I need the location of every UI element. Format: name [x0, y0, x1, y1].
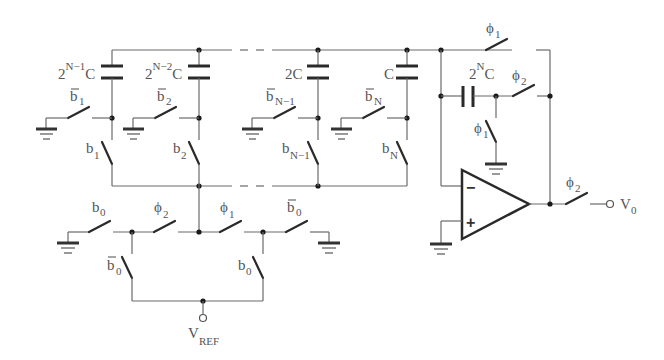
- ground-icon: [485, 164, 507, 174]
- switch-b2bar[interactable]: [155, 107, 176, 118]
- svg-text:ϕ: ϕ: [154, 199, 162, 215]
- label-b0bar-down: b0: [107, 257, 122, 277]
- svg-text:1: 1: [94, 149, 100, 161]
- switch-b2[interactable]: [189, 142, 199, 164]
- svg-text:ϕ: ϕ: [220, 199, 228, 215]
- label-b2: b2: [173, 140, 187, 161]
- switch-b1[interactable]: [102, 142, 112, 164]
- switch-phi2-out[interactable]: [566, 193, 587, 204]
- svg-text:2: 2: [166, 95, 172, 107]
- label-bnbar: bN: [365, 88, 382, 107]
- svg-text:1: 1: [79, 95, 85, 107]
- svg-text:0: 0: [100, 206, 106, 218]
- vref-terminal[interactable]: [200, 315, 207, 322]
- svg-text:b: b: [266, 88, 274, 104]
- svg-text:ϕ: ϕ: [512, 67, 520, 83]
- cap-label-cf: 2NC: [469, 60, 494, 82]
- svg-text:V: V: [620, 196, 631, 212]
- cap-label-c1: 2N−1C: [58, 60, 95, 82]
- label-b1bar: b1: [70, 88, 85, 107]
- label-bn1: bN−1: [282, 140, 310, 161]
- switch-phi1-top[interactable]: [486, 39, 507, 50]
- svg-text:b: b: [173, 140, 181, 156]
- switch-b1bar[interactable]: [68, 107, 89, 118]
- svg-text:b: b: [382, 140, 390, 156]
- bit-column-n: [331, 50, 418, 186]
- switch-b0bar-right[interactable]: [286, 221, 307, 232]
- svg-text:0: 0: [631, 204, 637, 216]
- svg-text:b: b: [70, 88, 78, 104]
- svg-text:REF: REF: [199, 335, 219, 347]
- svg-text:b: b: [287, 199, 295, 215]
- svg-text:ϕ: ϕ: [474, 120, 482, 136]
- switch-bnbar[interactable]: [363, 107, 384, 118]
- ground-icon: [123, 129, 144, 139]
- svg-text:0: 0: [246, 265, 252, 277]
- top-bus: [112, 47, 550, 52]
- switch-bn[interactable]: [397, 142, 407, 164]
- switch-b0bar-down[interactable]: [122, 257, 132, 278]
- dac-circuit-diagram: 2N−1C 2N−2C 2C C 2NC b1 b2 bN−1 bN b1 b2…: [0, 0, 664, 360]
- svg-text:2: 2: [163, 208, 169, 220]
- svg-text:b: b: [365, 88, 373, 104]
- ground-icon: [36, 129, 57, 139]
- label-b1: b1: [86, 140, 100, 161]
- label-phi2-mid: ϕ2: [154, 199, 169, 220]
- svg-text:N−1: N−1: [290, 149, 310, 161]
- ground-icon: [331, 129, 352, 139]
- label-b0bar-right: b0: [287, 199, 302, 218]
- label-phi2-fb: ϕ2: [512, 67, 527, 87]
- svg-text:b: b: [92, 199, 100, 215]
- ground-icon: [430, 244, 452, 254]
- output-stage: [430, 39, 614, 254]
- switch-bn1bar[interactable]: [274, 107, 295, 118]
- svg-text:0: 0: [296, 206, 302, 218]
- label-bn: bN: [382, 140, 398, 161]
- svg-text:b: b: [86, 140, 94, 156]
- svg-text:1: 1: [495, 28, 501, 40]
- ground-icon: [242, 129, 263, 139]
- svg-text:b: b: [107, 257, 115, 273]
- label-b0-down: b0: [238, 257, 252, 277]
- svg-text:2: 2: [575, 182, 581, 194]
- switch-b0-left[interactable]: [89, 221, 110, 232]
- label-phi2-out: ϕ2: [566, 174, 581, 194]
- label-vout: V0: [620, 196, 637, 216]
- svg-text:N−1: N−1: [275, 95, 295, 107]
- cap-label-cn1: 2C: [285, 66, 303, 82]
- svg-text:2: 2: [521, 75, 527, 87]
- vout-terminal[interactable]: [607, 201, 614, 208]
- svg-text:1: 1: [483, 128, 489, 140]
- svg-text:b: b: [157, 88, 165, 104]
- svg-text:b: b: [282, 140, 290, 156]
- svg-text:1: 1: [229, 208, 235, 220]
- svg-text:V: V: [188, 325, 199, 341]
- opamp-minus-sign: −: [466, 179, 475, 196]
- svg-text:N: N: [374, 95, 382, 107]
- ground-icon: [57, 243, 79, 253]
- svg-text:0: 0: [116, 265, 122, 277]
- svg-text:N: N: [390, 149, 398, 161]
- cap-label-c2: 2N−2C: [145, 60, 182, 82]
- switch-phi2-mid[interactable]: [154, 221, 175, 232]
- switch-phi1-mid[interactable]: [220, 221, 241, 232]
- cap-label-cn: C: [384, 66, 394, 82]
- label-b2bar: b2: [157, 88, 172, 107]
- label-vref: VREF: [188, 325, 219, 347]
- svg-text:ϕ: ϕ: [566, 174, 574, 190]
- ground-icon: [318, 243, 340, 253]
- label-phi1-mid: ϕ1: [220, 199, 235, 220]
- label-bn1bar: bN−1: [266, 88, 295, 107]
- opamp-plus-sign: +: [466, 214, 475, 231]
- label-phi1-top: ϕ1: [486, 20, 501, 40]
- switch-b0-down[interactable]: [253, 257, 263, 278]
- label-b0-left: b0: [92, 199, 106, 218]
- bottom-bus: [112, 183, 407, 188]
- svg-text:ϕ: ϕ: [486, 20, 494, 36]
- svg-text:b: b: [238, 257, 246, 273]
- svg-text:2: 2: [181, 149, 187, 161]
